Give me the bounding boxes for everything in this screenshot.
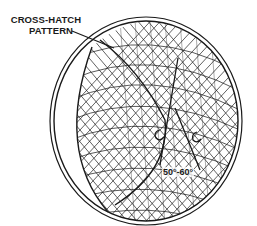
callout-label-line2: PATTERN	[26, 25, 76, 36]
angle-label: 50°-60°	[162, 167, 194, 177]
callout-label-line1: CROSS-HATCH	[8, 14, 84, 25]
bore-inner-rim	[54, 21, 238, 221]
